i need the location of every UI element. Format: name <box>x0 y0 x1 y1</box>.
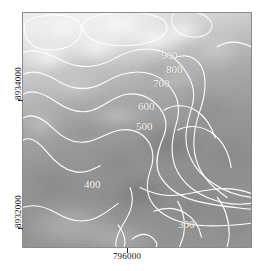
contour-900 <box>24 13 227 197</box>
y-axis-tick-upper <box>18 100 23 101</box>
x-axis-label-796000: 796000 <box>113 251 141 261</box>
contour-800 <box>23 42 251 197</box>
y-axis-label-8934000: 8934000 <box>13 67 23 100</box>
contour-600 <box>23 92 251 209</box>
contour-400 <box>23 139 251 247</box>
map-plot-area[interactable]: 900 800 700 600 500 400 300 <box>22 12 252 248</box>
contour-lines <box>23 13 251 247</box>
contour-map-figure: 900 800 700 600 500 400 300 8934000 8932… <box>0 0 260 271</box>
y-axis-label-8932000: 8932000 <box>13 195 23 228</box>
contour-700 <box>23 72 251 204</box>
y-axis-tick-lower <box>18 228 23 229</box>
contour-500 <box>23 116 251 226</box>
